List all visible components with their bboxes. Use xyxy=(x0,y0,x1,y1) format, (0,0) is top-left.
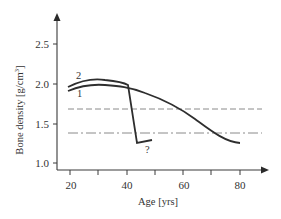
y-tick-label: 1.5 xyxy=(35,118,49,130)
x-axis: 20 40 60 80 Age [yrs] xyxy=(57,167,269,208)
x-tick-label: 20 xyxy=(66,179,78,191)
x-tick-label: 60 xyxy=(179,179,191,191)
y-axis-arrow-icon xyxy=(54,13,61,21)
y-tick-label: 2.0 xyxy=(35,78,49,90)
curve-1 xyxy=(68,85,240,143)
y-axis: 2.5 2.0 1.5 1.0 Bone density [g/cm3] xyxy=(13,13,61,170)
x-tick-label: 40 xyxy=(122,179,134,191)
x-axis-title: Age [yrs] xyxy=(138,196,178,207)
x-tick-label: 80 xyxy=(235,179,247,191)
bone-density-chart: 2.5 2.0 1.5 1.0 Bone density [g/cm3] 20 … xyxy=(0,0,281,219)
y-tick-label: 2.5 xyxy=(35,38,49,50)
y-axis-title: Bone density [g/cm3] xyxy=(13,65,25,154)
curve-1-label: 1 xyxy=(77,88,82,99)
curve-2-label: 2 xyxy=(76,70,81,81)
question-mark-annotation: ? xyxy=(145,144,150,155)
x-axis-arrow-icon xyxy=(261,167,269,174)
y-tick-label: 1.0 xyxy=(35,157,49,169)
